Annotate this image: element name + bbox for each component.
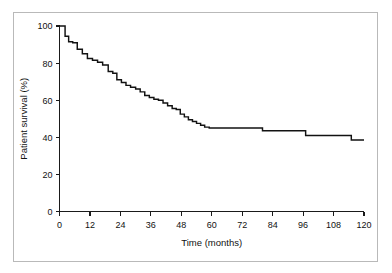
y-axis-title: Patient survival (%) [18,78,29,160]
x-tick-label-96: 96 [298,220,308,230]
y-tick-label-0: 0 [47,207,52,217]
survival-chart: 02040608010001224364860728496108120Time … [14,13,377,261]
y-tick-label-100: 100 [37,21,52,31]
y-tick-label-40: 40 [42,133,52,143]
figure-root: 02040608010001224364860728496108120Time … [0,0,392,273]
x-axis-title: Time (months) [181,237,242,248]
x-tick-label-0: 0 [57,220,62,230]
x-tick-label-12: 12 [85,220,95,230]
survival-curve-line [60,26,365,140]
x-tick-label-108: 108 [326,220,341,230]
y-tick-label-20: 20 [42,170,52,180]
x-tick-label-48: 48 [176,220,186,230]
x-tick-label-36: 36 [146,220,156,230]
figure-border: 02040608010001224364860728496108120Time … [13,12,378,262]
x-tick-label-120: 120 [356,220,371,230]
x-tick-label-60: 60 [207,220,217,230]
x-tick-label-24: 24 [115,220,125,230]
x-tick-label-84: 84 [268,220,278,230]
y-tick-label-60: 60 [42,96,52,106]
y-tick-label-80: 80 [42,59,52,69]
x-tick-label-72: 72 [237,220,247,230]
